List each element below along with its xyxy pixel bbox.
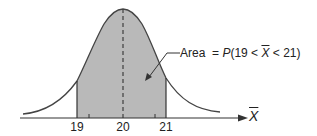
annotation-close: < 21) bbox=[269, 46, 300, 60]
chart-canvas bbox=[0, 0, 317, 136]
tick-label-20: 20 bbox=[116, 120, 129, 134]
annotation-equals: = bbox=[212, 46, 219, 60]
tick-label-21: 21 bbox=[159, 120, 172, 134]
shaded-area bbox=[77, 9, 166, 118]
annotation-open: (19 < bbox=[230, 46, 261, 60]
annotation-prefix: Area bbox=[180, 46, 205, 60]
area-annotation: Area = P(19 < X < 21) bbox=[180, 46, 300, 60]
normal-distribution-chart: 19 20 21 X Area = P(19 < X < 21) bbox=[0, 0, 317, 136]
x-axis-label: X bbox=[249, 108, 258, 124]
x-axis-arrowhead-icon bbox=[238, 115, 248, 122]
tick-label-19: 19 bbox=[70, 120, 83, 134]
